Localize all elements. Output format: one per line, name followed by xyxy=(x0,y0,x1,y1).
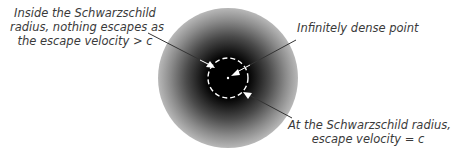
black-hole-diagram: Inside the Schwarzschild radius, nothing… xyxy=(0,0,453,155)
label-inside-line-1: Inside the Schwarzschild xyxy=(10,6,160,20)
singularity-point xyxy=(227,77,229,79)
label-dense-point: Infinitely dense point xyxy=(297,21,419,35)
label-point-line-1: Infinitely dense point xyxy=(297,21,419,35)
leader-line-radius xyxy=(247,94,292,118)
arrowhead-point-icon xyxy=(231,69,240,76)
label-inside-radius: Inside the Schwarzschild radius, nothing… xyxy=(10,6,160,48)
label-radius-line-1: At the Schwarzschild radius, xyxy=(288,118,448,132)
label-at-radius: At the Schwarzschild radius, escape velo… xyxy=(288,118,448,146)
label-inside-line-2: radius, nothing escapes as xyxy=(10,20,160,34)
label-radius-line-2: escape velocity = c xyxy=(288,132,448,146)
label-inside-line-3: the escape velocity > c xyxy=(10,34,160,48)
arrowhead-inside-icon xyxy=(206,61,215,68)
